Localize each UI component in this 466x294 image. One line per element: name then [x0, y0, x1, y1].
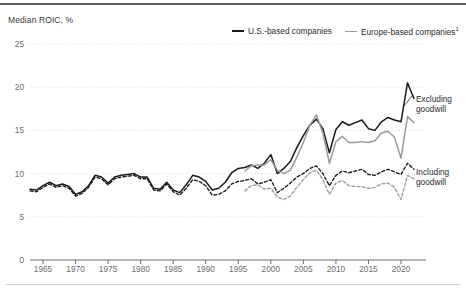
- y-axis-tick-label: 25: [2, 39, 24, 49]
- x-axis-tick-label: 1995: [223, 264, 253, 274]
- x-axis-tick-label: 2010: [321, 264, 351, 274]
- series-line-1: [245, 115, 414, 174]
- x-axis-tick-label: 1970: [61, 264, 91, 274]
- bottom-divider: [6, 284, 460, 285]
- x-axis-tick-label: 1965: [28, 264, 58, 274]
- plot-area: [0, 0, 466, 294]
- chart-figure: Median ROIC, % U.S.-based companies Euro…: [0, 0, 466, 294]
- y-axis-tick-label: 5: [2, 212, 24, 222]
- x-axis-tick-label: 1975: [93, 264, 123, 274]
- x-axis-tick-label: 1990: [191, 264, 221, 274]
- annotation-excluding-line2: goodwill: [416, 104, 452, 114]
- annotation-including-line2: goodwill: [416, 177, 449, 187]
- x-axis-tick-label: 1980: [126, 264, 156, 274]
- annotation-including-line1: Including: [416, 167, 449, 177]
- x-axis-tick-label: 1985: [158, 264, 188, 274]
- annotation-excluding-goodwill: Excluding goodwill: [416, 94, 452, 114]
- chart-svg: [0, 0, 466, 294]
- series-line-0: [30, 83, 414, 194]
- y-axis-tick-label: 0: [2, 255, 24, 265]
- series-line-2: [30, 163, 414, 196]
- x-axis-tick-label: 2000: [256, 264, 286, 274]
- y-axis-tick-label: 10: [2, 169, 24, 179]
- x-axis-tick-label: 2020: [386, 264, 416, 274]
- x-axis-tick-label: 2015: [353, 264, 383, 274]
- annotation-excluding-line1: Excluding: [416, 94, 452, 104]
- annotation-including-goodwill: Including goodwill: [416, 167, 449, 187]
- y-axis-tick-label: 15: [2, 125, 24, 135]
- y-axis-tick-label: 20: [2, 82, 24, 92]
- x-axis-tick-label: 2005: [288, 264, 318, 274]
